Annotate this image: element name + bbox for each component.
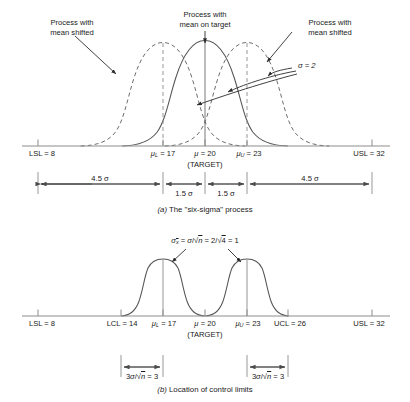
axis-label-a-usl: USL = 32	[353, 149, 385, 159]
axis-label-a-mu: μ = 20	[194, 149, 215, 159]
callout-left-shifted: Process with mean shifted	[50, 18, 93, 37]
axis-label-b-mu: μ = 20	[194, 319, 215, 329]
figure-canvas	[0, 0, 410, 402]
callout-right-shifted: Process with mean shifted	[308, 18, 351, 37]
dimension-label-a-left-15: 1.5 σ	[175, 189, 192, 199]
six-sigma-figure: Process with mean shifted Process with m…	[0, 0, 410, 402]
target-note-a: (TARGET)	[187, 160, 222, 170]
axis-label-b-mu-lower: μL = 17	[152, 319, 176, 331]
panel-a-curves	[81, 41, 330, 147]
panel-a-caption: (a) The "six-sigma" process	[157, 205, 252, 214]
axis-label-b-usl: USL = 32	[353, 319, 385, 329]
panel-b-formula-leaders	[172, 249, 241, 262]
panel-a-dimension-line	[38, 172, 372, 194]
dimension-label-a-left-45: 4.5 σ	[91, 174, 108, 184]
dimension-label-a-right-15: 1.5 σ	[217, 189, 234, 199]
panel-b-caption: (b) Location of control limits	[157, 385, 252, 394]
panel-a-callout-leaders	[75, 31, 292, 74]
panel-b-axis	[22, 310, 390, 317]
axis-label-a-lsl: LSL = 8	[29, 149, 55, 159]
dimension-label-b-right: 3σ/√n = 3	[252, 372, 284, 382]
panel-a-axis	[22, 140, 390, 147]
axis-label-b-ucl: UCL = 26	[274, 319, 306, 329]
sigma-value-label: σ = 2	[298, 61, 315, 71]
dimension-label-a-right-45: 4.5 σ	[301, 174, 318, 184]
leader-right-callout	[267, 32, 292, 62]
formula-leader-left	[172, 249, 186, 262]
formula-leader-right	[228, 249, 241, 262]
sigma-xbar-formula: σx = σ/√n = 2/√4 = 1	[171, 236, 238, 248]
sigma-arrow-2	[228, 71, 296, 92]
axis-label-a-mu-lower: μL = 17	[151, 149, 175, 161]
target-note-b: (TARGET)	[187, 330, 222, 340]
axis-label-b-lcl: LCL = 14	[107, 319, 138, 329]
axis-label-a-mu-upper: μU = 23	[236, 149, 261, 161]
callout-center-on-target: Process with mean on target	[179, 10, 230, 29]
axis-label-b-lsl: LSL = 8	[29, 319, 55, 329]
dimension-label-b-left: 3σ/√n = 3	[126, 372, 158, 382]
axis-label-b-mu-upper: μU = 23	[235, 319, 260, 331]
leader-left-callout	[75, 36, 116, 74]
panel-b-curves	[121, 259, 288, 316]
